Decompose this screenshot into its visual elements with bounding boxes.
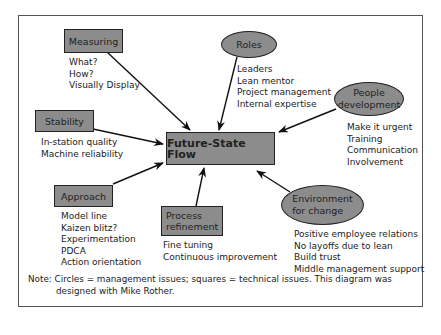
list-item: Internal expertise bbox=[237, 99, 331, 111]
approach-label: Approach bbox=[61, 191, 106, 202]
environment-for-change-items: Positive employee relations No layoffs d… bbox=[294, 229, 424, 275]
measuring-label: Measuring bbox=[69, 36, 118, 47]
list-item: Training bbox=[347, 134, 418, 146]
list-item: Make it urgent bbox=[347, 122, 418, 134]
list-item: Model line bbox=[61, 211, 141, 223]
people-development-items: Make it urgent Training Communication In… bbox=[347, 122, 418, 168]
list-item: Communication bbox=[347, 145, 418, 157]
arrow-roles bbox=[219, 57, 237, 130]
list-item: Involvement bbox=[347, 157, 418, 169]
list-item: Action orientation bbox=[61, 257, 141, 269]
arrow-process-refinement bbox=[196, 168, 204, 206]
note-line-1: Note: Circles = management issues; squar… bbox=[28, 273, 392, 285]
label-line: development bbox=[338, 99, 401, 110]
list-item: Fine tuning bbox=[163, 240, 277, 252]
measuring-items: What? How? Visually Display bbox=[69, 57, 140, 92]
stability-items: In-station quality Machine reliability bbox=[41, 137, 123, 160]
approach-items: Model line Kaizen blitz? Experimentation… bbox=[61, 211, 141, 269]
label-line: Process bbox=[166, 210, 202, 221]
list-item: PDCA bbox=[61, 246, 141, 258]
stability-node: Stability bbox=[35, 110, 94, 132]
list-item: Kaizen blitz? bbox=[61, 223, 141, 235]
arrow-people-development bbox=[279, 109, 336, 132]
note-line-2: designed with Mike Rother. bbox=[28, 285, 392, 297]
label-line: refinement bbox=[166, 221, 218, 232]
approach-node: Approach bbox=[54, 185, 113, 207]
roles-label: Roles bbox=[236, 39, 261, 51]
list-item: No layoffs due to lean bbox=[294, 241, 424, 253]
people-development-node: People development bbox=[334, 82, 404, 116]
list-item: Project management bbox=[237, 87, 331, 99]
future-state-flow-label: Future-State Flow bbox=[167, 138, 274, 160]
list-item: Experimentation bbox=[61, 234, 141, 246]
environment-for-change-node: Environment for change bbox=[281, 185, 364, 225]
roles-node: Roles bbox=[221, 31, 277, 58]
label-line: for change bbox=[292, 205, 343, 216]
list-item: Leaders bbox=[237, 64, 331, 76]
list-item: Machine reliability bbox=[41, 149, 123, 161]
process-refinement-node: Process refinement bbox=[161, 206, 223, 236]
list-item: Visually Display bbox=[69, 80, 140, 92]
list-item: Positive employee relations bbox=[294, 229, 424, 241]
process-refinement-label: Process refinement bbox=[166, 210, 218, 232]
measuring-node: Measuring bbox=[64, 29, 123, 53]
environment-for-change-label: Environment for change bbox=[292, 193, 353, 217]
diagram-note: Note: Circles = management issues; squar… bbox=[28, 273, 392, 297]
stability-label: Stability bbox=[45, 116, 84, 127]
process-refinement-items: Fine tuning Continuous improvement bbox=[163, 240, 277, 263]
list-item: Build trust bbox=[294, 252, 424, 264]
roles-items: Leaders Lean mentor Project management I… bbox=[237, 64, 331, 110]
arrow-environment bbox=[257, 171, 290, 192]
label-line: People bbox=[353, 87, 385, 98]
list-item: Continuous improvement bbox=[163, 252, 277, 264]
list-item: Lean mentor bbox=[237, 76, 331, 88]
list-item: How? bbox=[69, 69, 140, 81]
label-line: Environment bbox=[292, 193, 353, 204]
arrow-approach bbox=[113, 163, 163, 184]
list-item: In-station quality bbox=[41, 137, 123, 149]
future-state-flow-node: Future-State Flow bbox=[166, 132, 275, 165]
people-development-label: People development bbox=[338, 87, 401, 111]
list-item: What? bbox=[69, 57, 140, 69]
